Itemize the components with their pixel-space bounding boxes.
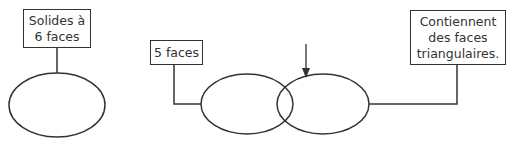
five-faces-circle (201, 74, 293, 134)
connector-line-triangular-faces (369, 64, 457, 104)
label-six-faces-text: Solides à 6 faces (29, 13, 85, 45)
label-five-faces-text: 5 faces (154, 45, 199, 61)
label-five-faces: 5 faces (150, 40, 203, 65)
arrow-down-icon (302, 44, 310, 78)
label-triangular-faces-text: Contiennent des faces triangulaires. (417, 14, 500, 62)
six-faces-circle (9, 73, 105, 137)
label-six-faces: Solides à 6 faces (23, 9, 91, 48)
connector-line-five-faces (174, 64, 201, 104)
triangular-faces-circle (277, 74, 369, 134)
label-triangular-faces: Contiennent des faces triangulaires. (410, 10, 506, 65)
